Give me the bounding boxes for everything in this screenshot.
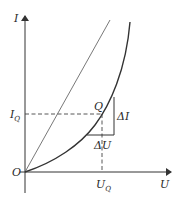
- origin-label: O: [12, 166, 21, 179]
- q-point-label: Q: [94, 100, 103, 113]
- y-axis-label: I: [13, 12, 19, 25]
- diagram-canvas: I U O Q IQ UQ ΔI ΔU: [0, 0, 181, 205]
- iq-label: IQ: [9, 108, 20, 123]
- x-axis-label: U: [160, 178, 170, 191]
- delta-u-label: ΔU: [93, 139, 112, 152]
- uq-label: UQ: [96, 178, 111, 193]
- delta-i-label: ΔI: [116, 110, 130, 123]
